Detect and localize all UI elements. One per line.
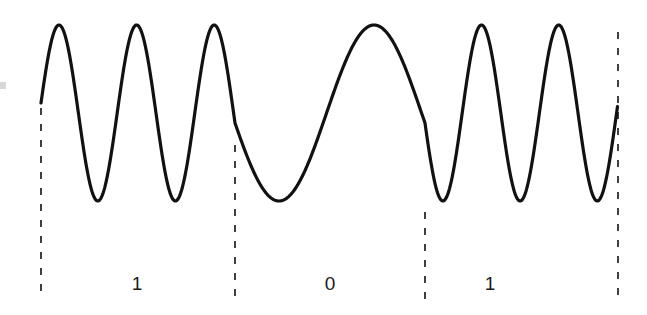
fsk-waveform-figure: 1 0 1: [0, 0, 647, 315]
bit-label-1: 0: [325, 273, 336, 295]
waveform-canvas: [0, 0, 647, 315]
fsk-signal-curve: [41, 25, 618, 201]
bit-label-0: 1: [132, 273, 143, 295]
bit-label-2: 1: [485, 273, 496, 295]
